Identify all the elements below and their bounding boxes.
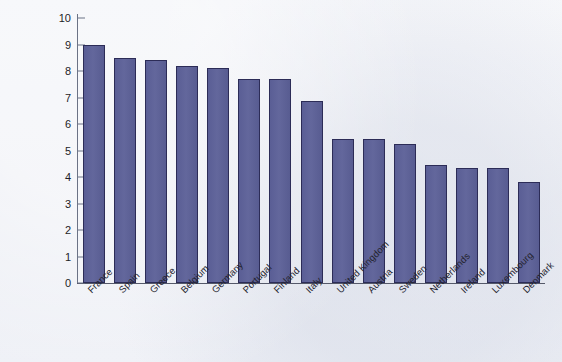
y-tick-label: 1	[65, 251, 71, 262]
bar	[269, 79, 291, 283]
y-tick-label: 9	[65, 39, 71, 50]
y-tick-label: 5	[65, 145, 71, 156]
y-tick-label: 2	[65, 225, 71, 236]
y-axis-line	[77, 14, 78, 283]
y-tick-label: 6	[65, 119, 71, 130]
bar	[145, 60, 167, 283]
y-tick-label: 3	[65, 198, 71, 209]
y-tick-label: 4	[65, 172, 71, 183]
bar-chart: 012345678910 FranceSpainGreeceBelgiumGer…	[0, 0, 562, 362]
bar	[487, 168, 509, 283]
bar	[83, 45, 105, 284]
y-tick-label: 7	[65, 92, 71, 103]
bar	[332, 139, 354, 283]
bar	[425, 165, 447, 283]
bar	[114, 58, 136, 283]
bar	[176, 66, 198, 283]
y-tick-label: 0	[65, 278, 71, 289]
bar	[394, 144, 416, 283]
y-tick-mark	[78, 18, 85, 19]
y-tick-label: 8	[65, 66, 71, 77]
bar	[238, 79, 260, 283]
plot-area: 012345678910 FranceSpainGreeceBelgiumGer…	[78, 18, 545, 283]
bar	[301, 101, 323, 283]
y-tick-label: 10	[59, 13, 71, 24]
bar	[207, 68, 229, 283]
